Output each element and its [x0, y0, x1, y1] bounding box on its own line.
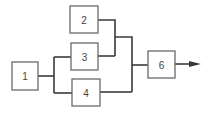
block-6: 6	[148, 51, 175, 78]
block-1-label: 1	[22, 71, 28, 82]
block-2: 2	[70, 6, 98, 33]
wire-23-bus	[115, 37, 132, 92]
output-arrow-icon	[189, 61, 201, 67]
block-3-label: 3	[82, 52, 88, 63]
block-2-label: 2	[81, 15, 87, 26]
block-diagram: 1 2 3 4 6	[0, 0, 205, 117]
block-3: 3	[71, 43, 98, 70]
block-6-label: 6	[159, 60, 165, 71]
block-4-label: 4	[83, 88, 89, 99]
wires	[38, 20, 201, 93]
wire-2-out	[98, 20, 115, 56]
block-1: 1	[12, 62, 38, 90]
block-4: 4	[72, 79, 100, 106]
